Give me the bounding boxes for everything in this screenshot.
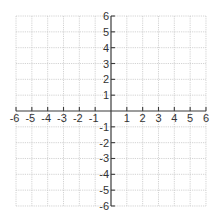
x-tick-label: -3: [57, 112, 67, 124]
x-tick-label: 5: [187, 112, 193, 124]
x-tick-label: 4: [171, 112, 177, 124]
x-tick-label: -1: [89, 112, 99, 124]
x-tick-label: 6: [203, 112, 209, 124]
y-tick-label: -1: [99, 121, 109, 133]
x-tick-label: 1: [124, 112, 130, 124]
x-tick-label: -5: [25, 112, 35, 124]
y-tick-label: -5: [99, 184, 109, 196]
y-tick-label: 6: [103, 10, 109, 22]
x-axis-ticks: -6-5-4-3-2-1123456: [10, 107, 209, 124]
y-tick-label: 4: [103, 42, 109, 54]
y-tick-label: 2: [103, 73, 109, 85]
x-tick-label: -6: [10, 112, 20, 124]
y-tick-label: -2: [99, 137, 109, 149]
y-tick-label: -6: [99, 200, 109, 212]
y-tick-label: -3: [99, 152, 109, 164]
x-tick-label: -2: [73, 112, 83, 124]
y-tick-label: 1: [103, 89, 109, 101]
y-tick-label: 5: [103, 26, 109, 38]
axes: [16, 16, 206, 206]
x-tick-label: 3: [155, 112, 161, 124]
y-tick-label: -4: [99, 168, 109, 180]
x-tick-label: -4: [41, 112, 51, 124]
y-tick-label: 3: [103, 58, 109, 70]
coordinate-plane: -6-5-4-3-2-1123456 654321-1-2-3-4-5-6: [0, 0, 217, 220]
x-tick-label: 2: [140, 112, 146, 124]
